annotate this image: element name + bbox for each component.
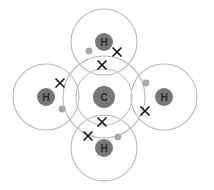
hydrogen-bottom-label: H (100, 143, 107, 154)
hydrogen-right-label: H (160, 92, 167, 103)
carbon-electron-dot-left (59, 106, 66, 113)
atom-carbon-center: C (93, 86, 115, 108)
atom-hydrogen-right: H (155, 88, 173, 106)
atom-hydrogen-left: H (37, 88, 55, 106)
bond-pair-left (56, 79, 65, 112)
carbon-shell-cross-top (98, 61, 106, 69)
hydrogen-electron-cross-left (56, 79, 64, 87)
carbon-electron-dot-top (86, 48, 93, 55)
dot-and-cross-diagram: H H H H C (0, 0, 214, 190)
methane-molecule-svg: H H H H C (0, 0, 214, 190)
atom-hydrogen-bottom: H (95, 139, 113, 157)
carbon-electron-dot-right (143, 80, 150, 87)
carbon-electron-dot-bottom (115, 134, 122, 141)
hydrogen-left-label: H (42, 92, 49, 103)
hydrogen-top-label: H (100, 37, 107, 48)
hydrogen-electron-cross-top (113, 48, 121, 56)
carbon-label: C (100, 92, 107, 103)
atom-hydrogen-top: H (95, 33, 113, 51)
